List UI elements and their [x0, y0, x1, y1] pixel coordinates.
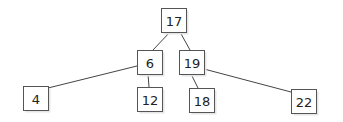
tree-node-19: 19 [180, 51, 207, 77]
node-label: 18 [194, 94, 211, 109]
node-label: 19 [184, 56, 201, 71]
tree-node-22: 22 [292, 90, 319, 116]
node-label: 6 [146, 56, 154, 71]
node-label: 17 [166, 14, 183, 29]
edge-17-19 [180, 32, 190, 50]
tree-node-4: 4 [24, 87, 51, 113]
node-label: 4 [32, 92, 40, 107]
edge-6-4 [48, 66, 137, 88]
tree-diagram: 176194121822 [0, 0, 343, 122]
tree-node-6: 6 [138, 51, 165, 77]
tree-node-12: 12 [138, 88, 165, 114]
tree-node-17: 17 [162, 9, 189, 35]
edge-17-6 [153, 32, 170, 50]
edge-19-22 [204, 69, 291, 92]
tree-node-18: 18 [190, 89, 217, 115]
node-label: 22 [296, 95, 313, 110]
node-label: 12 [142, 93, 159, 108]
